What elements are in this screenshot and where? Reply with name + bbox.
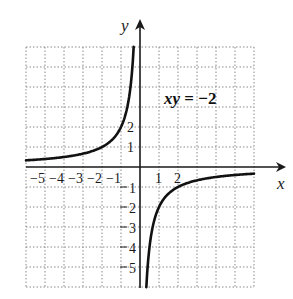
x-tick-label: −4 bbox=[49, 171, 64, 186]
x-tick-label: −5 bbox=[30, 171, 45, 186]
x-tick-label: 2 bbox=[174, 171, 181, 186]
y-tick-label: 4 bbox=[129, 241, 136, 256]
hyperbola-chart: x y −5 −4 −3 −2 −1 1 2 2 1 1 2 3 4 5 xy … bbox=[0, 0, 293, 299]
y-tick-label: 5 bbox=[129, 261, 136, 276]
x-tick-label: −2 bbox=[87, 171, 102, 186]
equation-value: = −2 bbox=[180, 89, 216, 108]
y-tick-label: 1 bbox=[127, 140, 134, 155]
curve-left-branch bbox=[26, 47, 134, 160]
curve-right-branch bbox=[146, 174, 254, 287]
x-tick-label: −1 bbox=[106, 171, 121, 186]
x-axis-label: x bbox=[276, 174, 285, 193]
equation-label: xy = −2 bbox=[163, 89, 216, 108]
y-tick-label: 2 bbox=[129, 201, 136, 216]
y-tick-label: 2 bbox=[127, 120, 134, 135]
x-tick-label: −3 bbox=[68, 171, 83, 186]
x-tick-label: 1 bbox=[155, 171, 162, 186]
y-tick-label: 1 bbox=[129, 181, 136, 196]
y-tick-labels: 2 1 1 2 3 4 5 bbox=[120, 120, 136, 276]
x-tick-labels: −5 −4 −3 −2 −1 1 2 bbox=[30, 171, 181, 186]
y-tick-label: 3 bbox=[129, 221, 136, 236]
y-axis-label: y bbox=[119, 16, 129, 35]
equation-variables: xy bbox=[163, 89, 181, 108]
